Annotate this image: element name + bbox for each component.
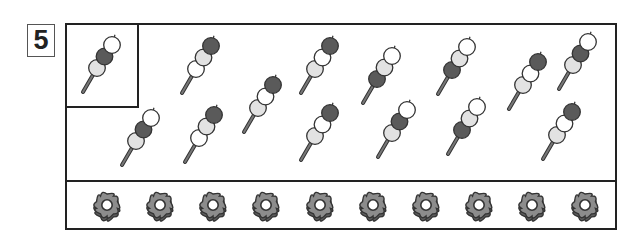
flower-icon <box>253 192 279 221</box>
flower-icon <box>413 192 439 221</box>
skewer-icon <box>448 97 485 154</box>
skewer-icon <box>543 102 580 159</box>
dark-dango-ball <box>564 104 581 121</box>
white-dango-ball <box>469 99 486 116</box>
skewer-icon <box>301 36 338 93</box>
flower-icon <box>200 192 226 221</box>
skewer-icon <box>559 32 596 89</box>
skewer-icon <box>244 75 281 132</box>
reference-skewer <box>83 35 120 92</box>
skewer-icon <box>122 108 159 165</box>
dark-dango-ball <box>322 105 339 122</box>
dark-dango-ball <box>206 107 223 124</box>
flower-icon <box>466 192 492 221</box>
white-dango-ball <box>399 102 416 119</box>
illustration-canvas <box>0 0 638 241</box>
white-dango-ball <box>459 39 476 56</box>
dark-dango-ball <box>530 54 547 71</box>
dark-dango-ball <box>265 77 282 94</box>
white-dango-ball <box>580 34 597 51</box>
reference-skewer-icon <box>83 35 120 92</box>
skewer-icon <box>182 36 219 93</box>
skewer-icon <box>438 37 475 94</box>
flower-icon <box>147 192 173 221</box>
dark-dango-ball <box>203 38 220 55</box>
flower-icon <box>94 192 120 221</box>
skewer-icon <box>301 103 338 160</box>
skewer-group <box>122 32 596 165</box>
white-dango-ball <box>143 110 160 127</box>
flower-icon <box>519 192 545 221</box>
flower-icon <box>307 192 333 221</box>
flower-icon <box>572 192 598 221</box>
white-dango-ball <box>384 48 401 65</box>
flower-icon <box>360 192 386 221</box>
skewer-icon <box>509 52 546 109</box>
skewer-icon <box>185 105 222 162</box>
flower-row <box>94 192 598 221</box>
skewer-icon <box>378 100 415 157</box>
dark-dango-ball <box>322 38 339 55</box>
white-dango-ball <box>104 37 121 54</box>
skewer-icon <box>363 46 400 103</box>
